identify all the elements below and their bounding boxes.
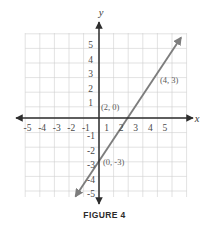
y-tick-3: 3 [88, 69, 93, 79]
y-tick-labels-positive: 5 4 3 2 1 [88, 40, 93, 108]
figure-caption: FIGURE 4 [0, 210, 209, 220]
x-axis-label: x [194, 113, 200, 124]
x-tick-2: 2 [119, 123, 124, 133]
point-annotations: (2, 0) (4, 3) (0, -3) [101, 75, 179, 167]
point-label-2-0: (2, 0) [101, 102, 120, 112]
y-tick--2: -2 [87, 146, 95, 156]
y-tick--1: -1 [87, 131, 95, 141]
point-label-4-3: (4, 3) [160, 75, 179, 85]
y-tick-1: 1 [88, 98, 93, 108]
grid-lines [25, 33, 186, 197]
x-tick--2: -2 [67, 123, 75, 133]
y-tick--3: -3 [87, 160, 95, 170]
y-tick--4: -4 [87, 175, 95, 185]
x-tick-labels-negative: -5 -4 -3 -2 -1 [24, 123, 91, 133]
figure-container: x y -5 -4 -3 -2 -1 1 2 3 4 5 5 4 3 2 1 -… [0, 0, 209, 232]
x-tick--4: -4 [38, 123, 46, 133]
x-tick-3: 3 [133, 123, 138, 133]
y-tick-labels-negative: -1 -2 -3 -4 -5 [87, 131, 95, 199]
y-tick-5: 5 [88, 40, 93, 50]
x-tick-4: 4 [148, 123, 153, 133]
y-tick-4: 4 [88, 55, 93, 65]
y-tick-2: 2 [88, 84, 93, 94]
x-tick--3: -3 [53, 123, 61, 133]
x-tick--5: -5 [24, 123, 32, 133]
y-axis-label: y [98, 7, 104, 18]
x-tick-1: 1 [104, 123, 109, 133]
y-tick--5: -5 [87, 189, 95, 199]
point-label-0-neg3: (0, -3) [103, 157, 124, 167]
coordinate-plane-chart: x y -5 -4 -3 -2 -1 1 2 3 4 5 5 4 3 2 1 -… [0, 0, 209, 232]
x-tick-5: 5 [163, 123, 168, 133]
